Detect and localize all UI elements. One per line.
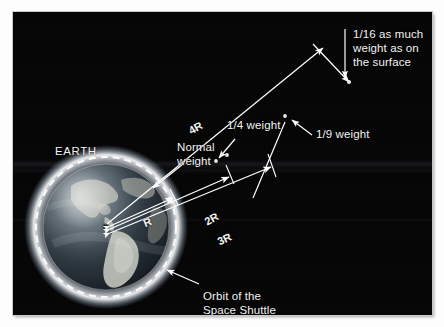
ninth-weight-label: 1/9 weight — [316, 128, 369, 142]
earth-label: EARTH — [55, 145, 97, 159]
earth-center-point — [104, 225, 109, 230]
tick-2R — [226, 165, 234, 184]
leader-1-9-lower — [253, 122, 285, 198]
figure-root: 1/16 as much weight as on the surface 1/… — [0, 0, 444, 327]
quarter-weight-label: 1/4 weight — [227, 119, 280, 133]
sixteenth-weight-marker — [347, 80, 351, 84]
normal-weight-marker — [225, 153, 229, 157]
ninth-weight-marker — [283, 114, 287, 118]
earth-globe-group — [24, 145, 188, 309]
orbit-caption-label: Orbit of the Space Shuttle — [203, 290, 276, 315]
sixteenth-weight-label: 1/16 as much weight as on the surface — [353, 28, 423, 69]
arrow-4R-to-marker — [313, 44, 349, 82]
arrow-4R — [107, 48, 323, 224]
leader-1-9 — [292, 120, 312, 135]
space-panel: 1/16 as much weight as on the surface 1/… — [13, 12, 432, 315]
tick-3R — [268, 154, 276, 177]
leader-orbit — [167, 270, 199, 284]
normal-weight-label: Normal weight — [177, 141, 215, 169]
